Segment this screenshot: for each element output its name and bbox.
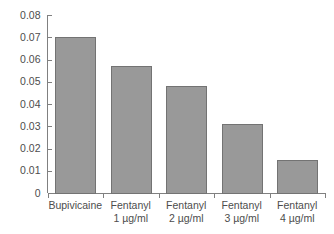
x-category-label: Fentanyl	[111, 199, 151, 211]
x-category-label: 3 µg/ml	[224, 212, 259, 224]
x-category-label: 2 µg/ml	[169, 212, 204, 224]
y-axis-tick-marks	[48, 16, 52, 194]
y-tick-label: 0.05	[20, 75, 41, 87]
bar	[278, 161, 318, 194]
bars-group	[56, 38, 318, 194]
y-tick-label: 0.06	[20, 53, 41, 65]
y-tick-label: 0.03	[20, 120, 41, 132]
x-category-label: Fentanyl	[277, 199, 317, 211]
y-tick-label: 0.07	[20, 31, 41, 43]
x-category-label: Fentanyl	[222, 199, 262, 211]
bar-chart: 00.010.020.030.040.050.060.070.08 Bupivi…	[0, 0, 334, 234]
x-category-label: 4 µg/ml	[280, 212, 315, 224]
y-axis-tick-labels: 00.010.020.030.040.050.060.070.08	[20, 9, 41, 199]
x-category-label: 1 µg/ml	[113, 212, 148, 224]
x-axis-category-labels: BupivicaineFentanyl1 µg/mlFentanyl2 µg/m…	[48, 199, 317, 224]
bar	[112, 67, 152, 194]
y-tick-label: 0.08	[20, 9, 41, 21]
y-tick-label: 0.01	[20, 164, 41, 176]
x-category-label: Fentanyl	[166, 199, 206, 211]
y-tick-label: 0.04	[20, 98, 41, 110]
bar	[223, 125, 263, 194]
y-tick-label: 0	[35, 187, 41, 199]
bar	[56, 38, 96, 194]
y-tick-label: 0.02	[20, 142, 41, 154]
x-category-label: Bupivicaine	[48, 199, 102, 211]
chart-canvas: 00.010.020.030.040.050.060.070.08 Bupivi…	[0, 0, 334, 234]
bar	[167, 87, 207, 194]
